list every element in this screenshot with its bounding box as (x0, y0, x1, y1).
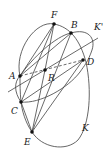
label-a: A (8, 71, 16, 81)
label-b: B (70, 20, 78, 30)
ellipse-k (19, 24, 89, 147)
point-c (19, 100, 23, 104)
label-d: D (86, 57, 94, 67)
point-r (43, 68, 47, 72)
point-e (30, 130, 34, 134)
label-e: E (23, 137, 31, 147)
label-f: F (50, 10, 58, 20)
label-r: R (47, 73, 55, 83)
point-b (69, 31, 73, 35)
label-c: C (11, 106, 18, 116)
segment-ce (21, 102, 32, 132)
conic-diagram: F B K' D A R C E K (0, 0, 111, 156)
point-d (81, 58, 85, 62)
point-a (18, 74, 22, 78)
label-k-prime: K' (93, 22, 103, 32)
segment-fc (21, 24, 54, 102)
point-f (52, 22, 56, 26)
label-k: K (81, 123, 90, 133)
